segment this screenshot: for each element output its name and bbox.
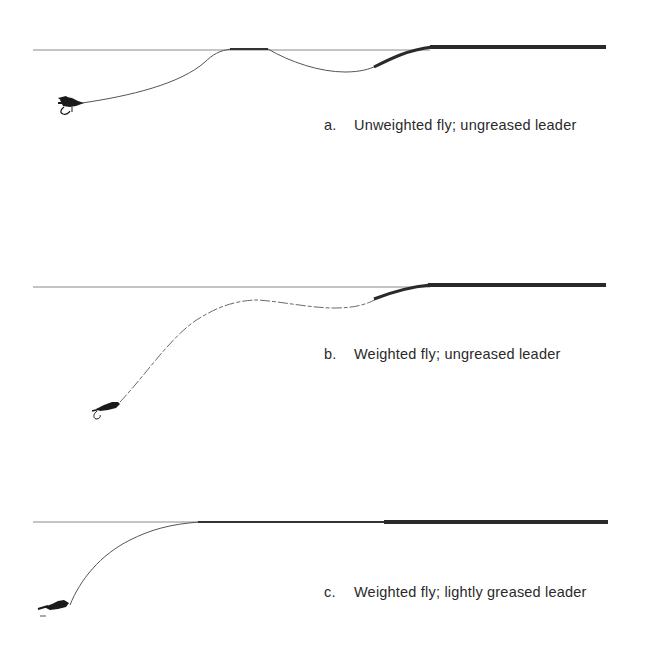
unweighted-fly-icon: [58, 96, 84, 114]
caption-letter: c.: [324, 584, 354, 600]
caption-c: c.Weighted fly; lightly greased leader: [324, 584, 587, 600]
caption-letter: a.: [324, 117, 354, 133]
caption-letter: b.: [324, 346, 354, 362]
caption-text: Unweighted fly; ungreased leader: [354, 117, 576, 133]
leader-line: [82, 49, 232, 103]
panel-a: [33, 47, 606, 114]
caption-b: b.Weighted fly; ungreased leader: [324, 346, 560, 362]
fly-leader-diagram: [0, 0, 646, 652]
caption-text: Weighted fly; ungreased leader: [354, 346, 560, 362]
leader-line: [70, 522, 200, 605]
leader-sag: [268, 49, 376, 72]
weighted-fly-icon: [38, 600, 69, 616]
weighted-fly-icon: [92, 402, 120, 419]
caption-a: a.Unweighted fly; ungreased leader: [324, 117, 576, 133]
panel-c: [33, 522, 608, 616]
caption-text: Weighted fly; lightly greased leader: [354, 584, 587, 600]
